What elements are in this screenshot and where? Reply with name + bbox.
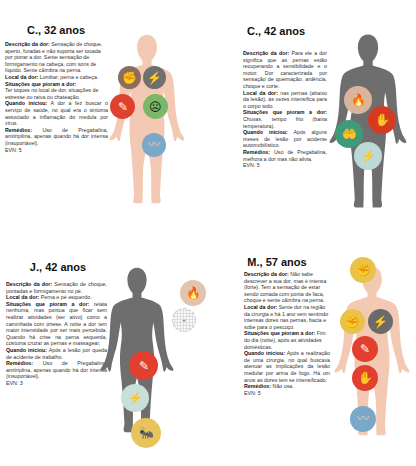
needle-stab-icon: ✎ — [129, 351, 158, 380]
fire-burning-icon: 🔥 — [344, 86, 372, 114]
value-evn: EVN: 5 — [5, 147, 108, 154]
label-inicio: Quando iniciou: — [6, 347, 47, 353]
patient-description: Descrição da dor: Não sabe descrever a s… — [244, 271, 330, 396]
patient-panel-c42: C., 42 anos Descrição da dor: Para ele a… — [208, 0, 416, 233]
label-situacoes: Situações que pioram a dor: — [5, 81, 76, 87]
label-descricao: Descrição da dor: — [6, 281, 52, 287]
label-inicio: Quando iniciou: — [5, 100, 47, 106]
cramp-leg-icon: 〰 — [142, 133, 166, 157]
label-descricao: Descrição da dor: — [5, 41, 50, 47]
label-local: Local da dor: — [5, 74, 38, 80]
needle-stab-icon: ✎ — [352, 336, 378, 362]
value-situacoes: Chuvas, tempo frio (baixa temperatura). — [243, 116, 327, 129]
stress-person-icon: ☹ — [143, 94, 168, 119]
patient-title: J., 42 anos — [18, 261, 98, 273]
lightning-shock-icon: ⚡ — [368, 309, 393, 334]
patient-description: Descrição da dor: Sensação de choque, ap… — [5, 41, 108, 153]
patient-title: C., 32 anos — [4, 24, 108, 36]
body-silhouette — [109, 8, 185, 230]
value-remedios: Não usa. — [273, 383, 294, 389]
lightning-shock-icon: ⚡ — [354, 142, 382, 170]
value-evn: EVN: 5 — [244, 390, 330, 397]
hand-cut-icon: ✋ — [352, 365, 378, 391]
label-local: Local da dor: — [243, 90, 278, 96]
label-descricao: Descrição da dor: — [243, 50, 289, 56]
label-descricao: Descrição da dor: — [244, 271, 289, 277]
fist-squeeze-icon: ✊ — [350, 257, 376, 283]
value-situacoes: relata nenhuma, mas pontua que ficar sem… — [6, 301, 107, 347]
label-local: Local da dor: — [244, 304, 277, 310]
tingling-dots-icon: + — [172, 308, 196, 332]
label-situacoes: Situações que pioram a dor: — [244, 330, 315, 336]
needle-stab-icon: ✎ — [110, 94, 135, 119]
patient-description: Descrição da dor: Para ele a dor signifi… — [243, 50, 327, 169]
pressing-squeeze-icon: ✊ — [118, 66, 141, 89]
label-situacoes: Situações que pioram a dor: — [243, 109, 327, 115]
patient-panel-j42: J., 42 anos Descrição da dor: Sensação d… — [0, 233, 208, 466]
label-local: Local da dor: — [6, 294, 39, 300]
label-inicio: Quando iniciou: — [243, 129, 288, 135]
patient-title: M., 57 anos — [232, 256, 322, 268]
patient-panel-m57: M., 57 anos Descrição da dor: Não sabe d… — [208, 233, 416, 466]
ant-tingling-icon: 🐜 — [131, 418, 161, 448]
label-remedios: Remédios: — [5, 127, 32, 133]
cramp-leg-icon: 〰 — [350, 406, 376, 432]
label-remedios: Remédios: — [243, 149, 270, 155]
fire-burning-icon: 🔥 — [180, 280, 206, 306]
value-local: Lombar, perna e cabeça. — [40, 74, 99, 80]
label-situacoes: Situações que pioram a dor: — [6, 301, 89, 307]
label-remedios: Remédios: — [244, 383, 271, 389]
lightning-shock-icon: ⚡ — [121, 384, 149, 412]
patient-title: C., 42 anos — [226, 25, 326, 37]
patient-panel-c32: C., 32 anos Descrição da dor: Sensação d… — [0, 0, 208, 233]
fist-squeeze-icon: ✊ — [340, 309, 365, 334]
value-local: Perna e pé esquerdo. — [41, 294, 92, 300]
patient-description: Descrição da dor: Sensação de choque, po… — [6, 281, 107, 387]
label-inicio: Quando iniciou: — [244, 350, 285, 356]
value-situacoes: Ter toques no local de dor, situações de… — [5, 87, 98, 100]
label-remedios: Remédios: — [6, 360, 33, 366]
value-evn: EVN: 5 — [243, 162, 327, 169]
lightning-shock-icon: ⚡ — [143, 66, 166, 89]
value-descricao: Para ele a dor significa que as pernas e… — [243, 50, 327, 89]
value-evn: EVN: 3 — [6, 380, 107, 387]
hand-cut-icon: ✋ — [368, 106, 396, 134]
